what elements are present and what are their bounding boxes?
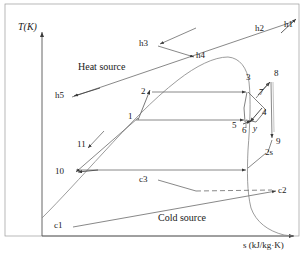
cycle-3-to-6 — [244, 92, 247, 122]
point-label-2: 2 — [141, 87, 146, 96]
point-label-6: 6 — [242, 126, 247, 135]
line-4-to-y — [250, 108, 262, 122]
x-axis-symbol: s — [243, 240, 247, 250]
c3-dashed-segment — [196, 190, 272, 191]
point-label-8: 8 — [274, 69, 279, 78]
y-axis-label: T(K) — [18, 22, 37, 32]
point-label-3: 3 — [246, 73, 251, 82]
ts-diagram-figure: T(K) s (kJ/kg·K) Heat source Cold source… — [0, 0, 304, 264]
line-8-to-9-b — [273, 82, 274, 132]
x-axis-label: s (kJ/kg·K) — [243, 241, 284, 250]
cold-source-label: Cold source — [158, 213, 206, 223]
point-label-h5: h5 — [55, 91, 64, 100]
point-label-10: 10 — [55, 167, 64, 176]
point-label-h2: h2 — [255, 24, 264, 33]
point-label-c2: c2 — [278, 186, 287, 195]
line-8-to-9 — [271, 82, 272, 138]
point-label-7: 7 — [259, 88, 264, 97]
point-label-4: 4 — [262, 108, 267, 117]
diagram-canvas — [0, 0, 304, 264]
line-2s-to-dome — [248, 153, 266, 168]
heat-source-label: Heat source — [78, 62, 125, 72]
point-label-c1: c1 — [54, 221, 63, 230]
point-label-h4: h4 — [196, 51, 205, 60]
h4-leader — [158, 46, 194, 57]
point-label-1: 1 — [128, 112, 133, 121]
point-label-c3: c3 — [139, 175, 148, 184]
h5-arrow — [74, 88, 100, 96]
leader-11 — [88, 131, 104, 148]
point-label-5: 5 — [232, 121, 237, 130]
point-label-h1: h1 — [284, 20, 293, 29]
x-axis-units: (kJ/kg·K) — [249, 240, 284, 250]
point-label-11: 11 — [77, 140, 86, 149]
c3-leader — [158, 180, 196, 191]
point-label-2s: 2s — [265, 148, 273, 157]
point-label-h3: h3 — [139, 39, 148, 48]
point-label-y: y — [253, 124, 257, 133]
h3-leader — [160, 28, 196, 44]
point-label-9: 9 — [276, 137, 281, 146]
